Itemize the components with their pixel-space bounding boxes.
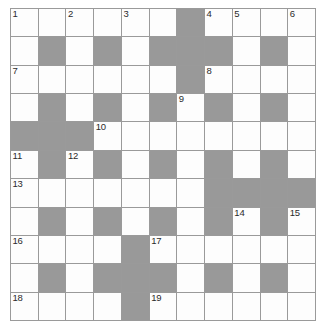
crossword-cell[interactable] <box>261 122 288 149</box>
crossword-cell[interactable] <box>66 208 93 235</box>
crossword-block-cell <box>205 37 232 64</box>
crossword-cell[interactable] <box>233 66 260 93</box>
crossword-block-cell <box>39 122 66 149</box>
crossword-cell[interactable] <box>11 208 38 235</box>
crossword-block-cell <box>261 151 288 178</box>
crossword-cell[interactable] <box>177 264 204 291</box>
crossword-cell[interactable] <box>39 66 66 93</box>
crossword-cell[interactable] <box>150 179 177 206</box>
crossword-cell[interactable] <box>11 264 38 291</box>
crossword-block-cell <box>205 151 232 178</box>
crossword-cell[interactable]: 9 <box>177 94 204 121</box>
crossword-cell[interactable] <box>288 151 315 178</box>
crossword-cell[interactable] <box>66 293 93 320</box>
crossword-cell[interactable] <box>177 122 204 149</box>
crossword-cell[interactable] <box>205 122 232 149</box>
crossword-cell[interactable] <box>39 236 66 263</box>
crossword-cell[interactable] <box>233 151 260 178</box>
crossword-cell[interactable] <box>233 37 260 64</box>
crossword-cell[interactable]: 2 <box>66 9 93 36</box>
crossword-cell[interactable] <box>66 94 93 121</box>
crossword-cell[interactable] <box>288 66 315 93</box>
crossword-block-cell <box>205 264 232 291</box>
crossword-block-cell <box>205 179 232 206</box>
crossword-cell[interactable] <box>122 66 149 93</box>
crossword-cell[interactable]: 16 <box>11 236 38 263</box>
crossword-cell[interactable] <box>66 236 93 263</box>
crossword-cell[interactable] <box>288 264 315 291</box>
crossword-cell[interactable] <box>122 37 149 64</box>
crossword-cell[interactable] <box>233 94 260 121</box>
crossword-cell[interactable] <box>233 264 260 291</box>
crossword-cell[interactable] <box>66 264 93 291</box>
crossword-cell[interactable] <box>150 9 177 36</box>
clue-number: 1 <box>13 9 18 19</box>
crossword-cell[interactable] <box>66 66 93 93</box>
crossword-cell[interactable]: 4 <box>205 9 232 36</box>
crossword-cell[interactable] <box>39 293 66 320</box>
crossword-cell[interactable]: 6 <box>288 9 315 36</box>
crossword-cell[interactable] <box>288 37 315 64</box>
crossword-cell[interactable] <box>94 236 121 263</box>
crossword-cell[interactable] <box>66 37 93 64</box>
crossword-cell[interactable] <box>261 66 288 93</box>
crossword-cell[interactable] <box>11 37 38 64</box>
crossword-cell[interactable] <box>94 9 121 36</box>
crossword-cell[interactable] <box>94 66 121 93</box>
crossword-block-cell <box>288 179 315 206</box>
crossword-cell[interactable]: 19 <box>150 293 177 320</box>
crossword-block-cell <box>261 37 288 64</box>
crossword-cell[interactable] <box>122 151 149 178</box>
crossword-cell[interactable]: 17 <box>150 236 177 263</box>
crossword-cell[interactable]: 14 <box>233 208 260 235</box>
crossword-cell[interactable]: 1 <box>11 9 38 36</box>
crossword-cell[interactable]: 12 <box>66 151 93 178</box>
crossword-cell[interactable] <box>233 122 260 149</box>
crossword-cell[interactable] <box>122 94 149 121</box>
crossword-cell[interactable] <box>288 122 315 149</box>
crossword-cell[interactable] <box>177 179 204 206</box>
crossword-cell[interactable]: 18 <box>11 293 38 320</box>
crossword-cell[interactable]: 5 <box>233 9 260 36</box>
crossword-cell[interactable]: 8 <box>205 66 232 93</box>
crossword-cell[interactable] <box>94 293 121 320</box>
crossword-cell[interactable] <box>66 179 93 206</box>
clue-number: 12 <box>68 151 78 161</box>
crossword-cell[interactable] <box>94 179 121 206</box>
crossword-cell[interactable] <box>150 122 177 149</box>
crossword-cell[interactable] <box>205 293 232 320</box>
crossword-block-cell <box>261 94 288 121</box>
crossword-block-cell <box>205 94 232 121</box>
crossword-cell[interactable] <box>261 236 288 263</box>
crossword-cell[interactable]: 15 <box>288 208 315 235</box>
crossword-cell[interactable]: 11 <box>11 151 38 178</box>
crossword-cell[interactable] <box>11 94 38 121</box>
crossword-cell[interactable] <box>177 293 204 320</box>
crossword-cell[interactable] <box>122 179 149 206</box>
crossword-cell[interactable]: 7 <box>11 66 38 93</box>
crossword-cell[interactable] <box>288 293 315 320</box>
crossword-cell[interactable] <box>39 179 66 206</box>
crossword-cell[interactable] <box>261 293 288 320</box>
crossword-cell[interactable] <box>233 293 260 320</box>
crossword-cell[interactable]: 13 <box>11 179 38 206</box>
crossword-cell[interactable] <box>261 9 288 36</box>
clue-number: 11 <box>13 151 22 161</box>
crossword-cell[interactable] <box>177 208 204 235</box>
crossword-cell[interactable] <box>288 94 315 121</box>
crossword-block-cell <box>11 122 38 149</box>
crossword-cell[interactable] <box>233 236 260 263</box>
crossword-cell[interactable]: 10 <box>94 122 121 149</box>
crossword-cell[interactable] <box>150 66 177 93</box>
crossword-cell[interactable] <box>288 236 315 263</box>
clue-number: 17 <box>151 236 161 246</box>
crossword-cell[interactable] <box>205 236 232 263</box>
crossword-cell[interactable] <box>39 9 66 36</box>
crossword-cell[interactable] <box>122 122 149 149</box>
crossword-block-cell <box>39 94 66 121</box>
crossword-cell[interactable] <box>122 208 149 235</box>
crossword-grid[interactable]: 12345678910111213141516171819 <box>10 8 316 321</box>
crossword-cell[interactable] <box>177 151 204 178</box>
crossword-cell[interactable]: 3 <box>122 9 149 36</box>
crossword-cell[interactable] <box>177 236 204 263</box>
